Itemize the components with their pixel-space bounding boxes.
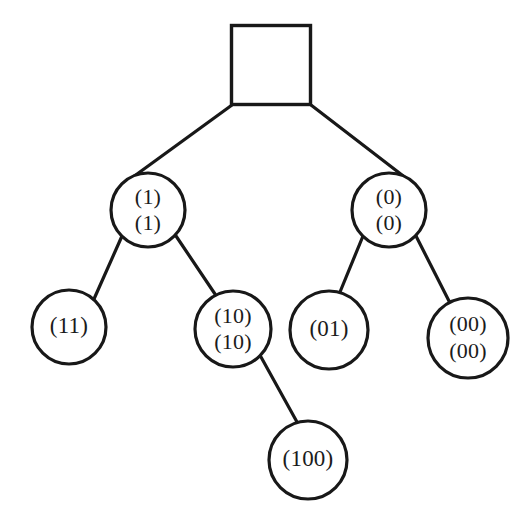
binary-tree-diagram: (1) (1) (0) (0) (11) (10) (10) (01) ( bbox=[0, 0, 532, 516]
node-1-label-line-1: (1) bbox=[135, 184, 161, 209]
tree-canvas: (1) (1) (0) (0) (11) (10) (10) (01) ( bbox=[0, 0, 532, 516]
node-10-label-line-2: (10) bbox=[214, 329, 251, 354]
edge-node-1-to-node-11 bbox=[94, 236, 122, 299]
node-10-label-line-1: (10) bbox=[214, 303, 251, 328]
node-01-label: (01) bbox=[309, 316, 348, 341]
node-100: (100) bbox=[269, 421, 347, 499]
node-00: (00) (00) bbox=[428, 298, 508, 378]
edge-node-10-to-node-100 bbox=[261, 357, 297, 422]
edge-node-0-to-node-00 bbox=[416, 236, 449, 301]
node-root bbox=[232, 26, 311, 105]
node-0-label-line-1: (0) bbox=[376, 184, 402, 209]
node-1-label-line-2: (1) bbox=[135, 210, 161, 235]
root-square-shape bbox=[232, 26, 311, 105]
node-01: (01) bbox=[290, 291, 368, 369]
node-0-label-line-2: (0) bbox=[376, 210, 402, 235]
node-00-label-line-1: (00) bbox=[449, 311, 486, 336]
node-11: (11) bbox=[32, 290, 106, 364]
node-1: (1) (1) bbox=[111, 173, 185, 247]
node-0: (0) (0) bbox=[352, 173, 426, 247]
node-00-label-line-2: (00) bbox=[449, 338, 486, 363]
node-10: (10) (10) bbox=[195, 291, 271, 367]
edge-node-1-to-node-10 bbox=[176, 236, 215, 294]
node-100-label: (100) bbox=[283, 446, 334, 471]
edge-node-0-to-node-01 bbox=[340, 236, 363, 292]
edge-group bbox=[94, 105, 449, 422]
node-11-label: (11) bbox=[50, 313, 88, 338]
